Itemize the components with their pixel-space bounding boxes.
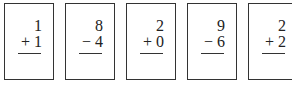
- operator: −: [204, 33, 213, 50]
- bottom-number: 1: [34, 33, 42, 50]
- top-number: 1: [34, 18, 42, 34]
- answer-line: [79, 53, 102, 54]
- top-number: 9: [217, 18, 225, 34]
- operator: −: [82, 33, 91, 50]
- answer-line: [262, 53, 285, 54]
- flashcard-4: 9 − 6: [187, 3, 237, 80]
- bottom-number: 4: [95, 33, 103, 50]
- top-number: 8: [95, 18, 103, 34]
- operator-and-bottom-number: − 4: [82, 34, 103, 50]
- operator-and-bottom-number: + 2: [265, 34, 286, 50]
- operator-and-bottom-number: + 1: [21, 34, 42, 50]
- flashcard-5: 2 + 2: [248, 3, 292, 80]
- operator-and-bottom-number: + 0: [143, 34, 164, 50]
- answer-line: [140, 53, 163, 54]
- flashcard-3: 2 + 0: [126, 3, 176, 80]
- operator: +: [21, 33, 30, 50]
- bottom-number: 0: [156, 33, 164, 50]
- top-number: 2: [278, 18, 286, 34]
- bottom-number: 2: [278, 33, 286, 50]
- bottom-number: 6: [217, 33, 225, 50]
- operator: +: [265, 33, 274, 50]
- operator: +: [143, 33, 152, 50]
- answer-line: [201, 53, 224, 54]
- flashcard-1: 1 + 1: [4, 3, 54, 80]
- top-number: 2: [156, 18, 164, 34]
- answer-line: [18, 53, 41, 54]
- flashcard-2: 8 − 4: [65, 3, 115, 80]
- operator-and-bottom-number: − 6: [204, 34, 225, 50]
